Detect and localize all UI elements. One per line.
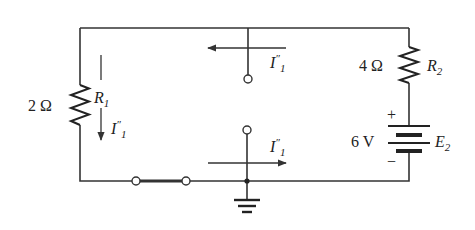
junction-dot [244,178,249,183]
open-terminal-bottom [243,126,251,134]
top-branch-current-label: I″1 [269,52,285,74]
ground-icon [234,200,260,212]
e2-plus-sign: + [387,106,396,123]
e2-name-label: E2 [434,133,451,153]
r1-name-label: R1 [93,89,109,109]
r1-value-label: 2 Ω [28,97,52,114]
battery-e2-symbol [388,126,430,151]
open-terminal-top [244,75,252,83]
wires [80,28,409,200]
r2-value-label: 4 Ω [359,57,383,74]
switch-terminal-left [132,177,140,185]
e2-minus-sign: − [387,153,396,170]
bottom-branch-current-label: I″1 [269,136,285,158]
resistor-r1-symbol [71,85,89,125]
circuit-diagram: 2 Ω R1 I″1 I″1 I″1 4 Ω R2 + − 6 V E2 [0,0,475,230]
r2-name-label: R2 [426,57,443,77]
r1-current-label: I″1 [110,118,126,140]
right-wire-lower [189,151,409,181]
switch-closed [132,177,190,185]
switch-terminal-right [182,177,190,185]
e2-value-label: 6 V [351,133,375,150]
resistor-r2-symbol [400,47,418,83]
